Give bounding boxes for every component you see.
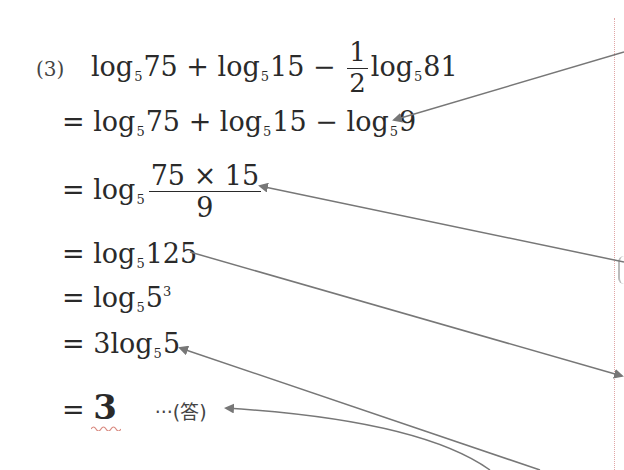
annotation-arrows	[0, 0, 624, 470]
arrow-from-step-3	[190, 252, 622, 376]
arrow-to-step-2	[260, 186, 624, 262]
arrow-to-step-1	[394, 52, 624, 120]
